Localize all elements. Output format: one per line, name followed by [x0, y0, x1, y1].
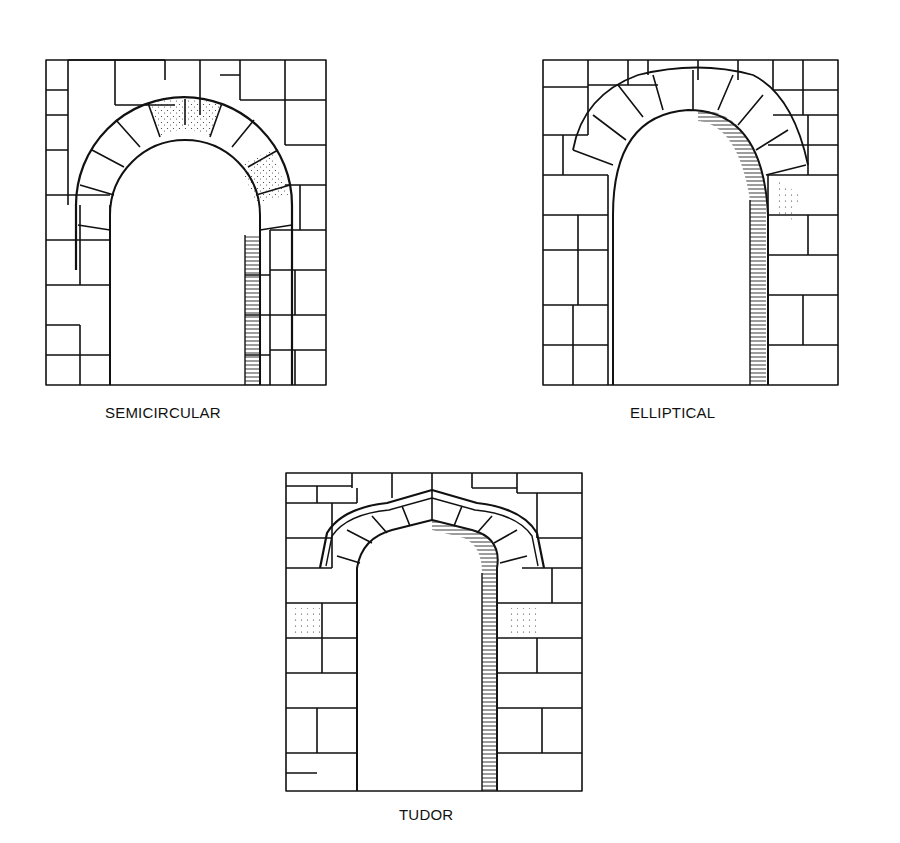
tudor-label: TUDOR — [399, 806, 453, 823]
tudor-arch-drawing — [282, 468, 587, 793]
semicircular-arch-drawing — [40, 55, 340, 390]
elliptical-label: ELLIPTICAL — [630, 404, 715, 421]
elliptical-arch-drawing — [538, 55, 843, 390]
semicircular-label: SEMICIRCULAR — [105, 404, 221, 421]
